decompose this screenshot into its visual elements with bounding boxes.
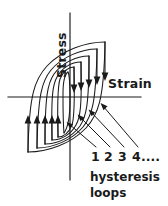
loop-numbers-ellipsis: .... <box>141 149 160 164</box>
loop-4-left-arrow-icon <box>49 115 56 124</box>
leader-line-3 <box>89 110 125 148</box>
loop-4-right-arrow-icon <box>78 83 85 92</box>
leader-lines-group <box>67 103 139 147</box>
hysteresis-diagram-svg: Stress Strain 1 2 3 4 .... hysteresis lo… <box>0 0 168 206</box>
loop-2-right-arrow-icon <box>94 77 101 86</box>
x-axis-label: Strain <box>108 76 152 91</box>
caption-line-1: hysteresis <box>90 170 160 184</box>
loop-3-right-arrow-icon <box>86 80 93 89</box>
leader-4-line <box>103 106 138 147</box>
leader-3-line <box>91 112 124 147</box>
leader-line-2 <box>78 115 111 148</box>
loop-number-4: 4 <box>132 149 141 164</box>
hysteresis-figure: Stress Strain 1 2 3 4 .... hysteresis lo… <box>0 0 168 206</box>
loop-5-right-arrow-icon <box>71 85 78 94</box>
caption-line-2: loops <box>90 186 126 200</box>
y-axis-label: Stress <box>54 32 69 78</box>
loop-number-3: 3 <box>118 149 127 164</box>
loop-6-curve <box>63 72 68 133</box>
leader-line-4 <box>101 103 139 147</box>
loop-3-left-arrow-icon <box>42 115 49 124</box>
loop-2-left-arrow-icon <box>34 115 41 124</box>
leader-2-line <box>80 117 110 147</box>
loop-number-1: 1 <box>91 149 100 164</box>
loop-number-2: 2 <box>104 149 113 164</box>
loop-5-left-arrow-icon <box>55 115 62 124</box>
leader-4-arrow-icon <box>101 103 108 110</box>
loop-1-left-arrow-icon <box>25 115 32 124</box>
